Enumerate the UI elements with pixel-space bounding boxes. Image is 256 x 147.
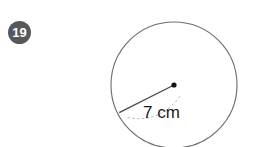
radius-measurement-label: 7 cm	[143, 103, 180, 122]
badge-number-label: 19	[12, 25, 26, 40]
question-number-badge: 19	[8, 21, 31, 44]
figure-page: 19 7 cm	[0, 0, 256, 147]
geometry-figure: 19 7 cm	[0, 0, 256, 147]
circle-center-dot	[171, 82, 176, 87]
